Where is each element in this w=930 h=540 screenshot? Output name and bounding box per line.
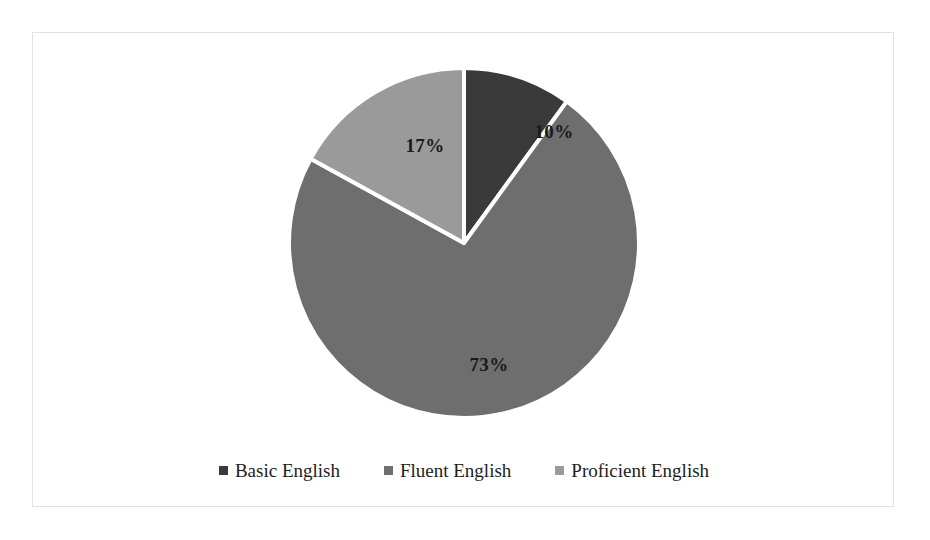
legend-item-label: Proficient English	[571, 461, 709, 480]
legend-item-label: Fluent English	[400, 461, 511, 480]
slice-label-basic-english: 10%	[535, 121, 574, 143]
chart-frame: 10% 17% 73% Basic EnglishFluent EnglishP…	[32, 32, 894, 507]
slice-label-proficient-english: 17%	[406, 135, 445, 157]
slice-label-fluent-english: 73%	[470, 354, 509, 376]
pie-chart-figure: 10% 17% 73% Basic EnglishFluent EnglishP…	[0, 0, 930, 540]
pie-slices	[289, 68, 639, 418]
legend-item-basic-english[interactable]: Basic English	[219, 461, 340, 480]
legend-swatch-icon	[219, 466, 228, 475]
legend-item-proficient-english[interactable]: Proficient English	[555, 461, 709, 480]
legend-item-fluent-english[interactable]: Fluent English	[384, 461, 511, 480]
plot-area: 10% 17% 73% Basic EnglishFluent EnglishP…	[33, 33, 895, 508]
legend-swatch-icon	[555, 466, 564, 475]
pie-svg	[33, 33, 895, 508]
legend-swatch-icon	[384, 466, 393, 475]
legend-item-label: Basic English	[235, 461, 340, 480]
chart-legend: Basic EnglishFluent EnglishProficient En…	[33, 461, 895, 480]
